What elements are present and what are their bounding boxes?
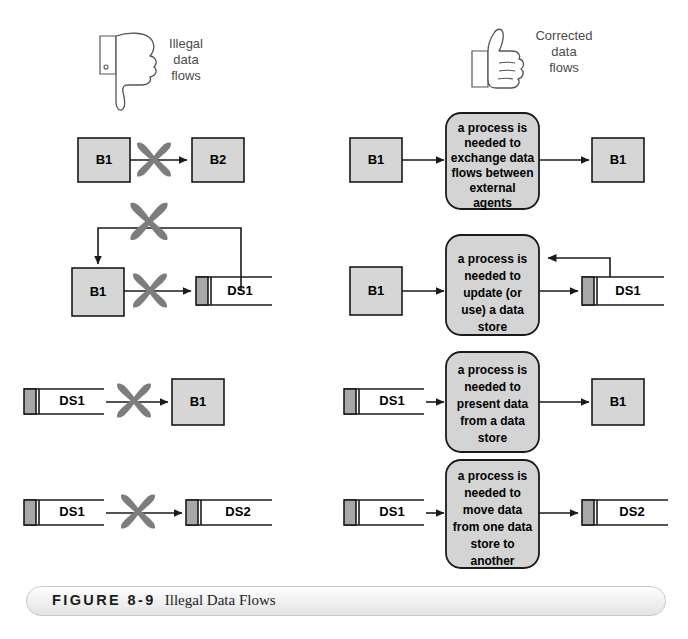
process-line: flows between [451,166,533,180]
node-label: DS2 [225,504,250,519]
node-label: DS1 [59,504,84,519]
process-line: a process is [458,363,528,377]
process-line: a process is [458,469,528,483]
node-label: B1 [190,394,207,409]
process-line: exchange data [451,151,535,165]
data-store-symbol: DS1 [24,389,104,414]
process-line: needed to [464,136,521,150]
data-store-symbol: DS1 [344,500,424,525]
legend-corrected-label: Corrected data flows [524,28,604,76]
process-line: needed to [464,486,521,500]
legend-line: data [524,44,604,60]
process-line: agents [473,196,512,210]
node-label: DS2 [619,504,644,519]
process-line: a process is [458,252,528,266]
thumbs-down-icon [100,33,156,110]
feedback-flow-arrow [548,258,610,277]
process-line: use) a data [461,303,524,317]
node-label: B1 [610,152,627,167]
process-line: needed to [464,269,521,283]
data-store-symbol: DS1 [24,500,104,525]
node-label: DS1 [227,283,252,298]
figure-illegal-data-flows: B1 B2 B1 a process is needed to exchange… [0,0,688,639]
cross-mark-icon [121,495,155,529]
node-label: B2 [210,152,227,167]
figure-number: FIGURE 8-9 [52,592,156,608]
process-line: from one data [453,520,533,534]
node-label: B1 [90,284,107,299]
legend-line: Corrected [524,28,604,44]
process-line: from a data [460,414,525,428]
data-store-symbol: DS1 [582,277,664,305]
process-line: update (or [463,286,522,300]
data-store-symbol: DS2 [186,500,272,525]
row-4-corrected: DS1 a process is needed to move data fro… [344,460,668,568]
node-label: DS1 [379,504,404,519]
diagram-canvas: B1 B2 B1 a process is needed to exchange… [0,0,688,639]
process-line: needed to [464,380,521,394]
row-4-illegal: DS1 DS2 [24,495,272,529]
node-label: DS1 [379,393,404,408]
data-store-symbol: DS1 [196,277,272,305]
row-2-illegal: B1 DS1 [72,203,272,316]
data-store-symbol: DS2 [582,500,668,525]
node-label: B1 [368,283,385,298]
cross-mark-icon [117,384,151,418]
data-store-symbol: DS1 [344,389,424,414]
legend-line: flows [150,68,222,84]
cross-mark-icon [130,203,167,240]
process-line: move data [463,503,523,517]
row-3-corrected: DS1 a process is needed to present data … [344,352,644,452]
node-label: B1 [368,152,385,167]
process-line: present data [457,397,529,411]
process-line: external [469,181,515,195]
figure-title: Illegal Data Flows [165,592,276,608]
legend-illegal-label: Illegal data flows [150,36,222,84]
thumbs-up-icon [472,29,523,88]
node-label: B1 [610,394,627,409]
legend-line: flows [524,60,604,76]
node-label: DS1 [59,393,84,408]
legend-line: data [150,52,222,68]
row-1-illegal: B1 B2 [78,138,244,182]
figure-caption: FIGURE 8-9Illegal Data Flows [52,592,276,609]
row-2-corrected: B1 a process is needed to update (or use… [350,235,664,335]
node-label: DS1 [615,283,640,298]
node-label: B1 [96,152,113,167]
process-line: another [470,554,514,568]
process-line: a process is [458,121,528,135]
legend-line: Illegal [150,36,222,52]
process-line: store to [470,537,514,551]
process-line: store [478,431,508,445]
row-1-corrected: B1 a process is needed to exchange data … [350,113,644,210]
process-line: store [478,320,508,334]
row-3-illegal: DS1 B1 [24,379,224,425]
